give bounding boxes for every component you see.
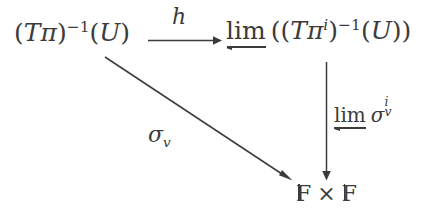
arrow-label-lim-sigma-v-i: lim σ i v bbox=[334, 102, 392, 131]
target-outer-close-paren: ) bbox=[402, 16, 412, 45]
target-exponent: −1 bbox=[338, 16, 361, 34]
times-icon: × bbox=[317, 181, 335, 206]
source-pi: π bbox=[40, 18, 56, 47]
arrow-vertical bbox=[322, 62, 331, 181]
blackboard-F-left: F bbox=[296, 183, 311, 205]
target-argument-U: U bbox=[371, 16, 392, 45]
target-open-paren: ( bbox=[280, 16, 290, 45]
sigma-indices-vertical: i v bbox=[384, 102, 392, 122]
blackboard-F-right: F bbox=[342, 183, 357, 205]
target-arg-open-paren: ( bbox=[361, 16, 371, 45]
arrow-diagonal bbox=[105, 57, 293, 181]
target-T: T bbox=[290, 16, 307, 45]
sigma-subscript-v: v bbox=[163, 134, 171, 150]
arrow-label-sigma-v: σv bbox=[148, 124, 171, 146]
source-arg-open-paren: ( bbox=[90, 18, 100, 47]
limit-arrow-head-left-icon bbox=[226, 46, 232, 50]
commutative-diagram: (Tπ)−1(U) lim ((Tπi)−1(U)) F×F h σv lim … bbox=[0, 0, 435, 217]
arrow-horizontal bbox=[148, 36, 222, 45]
source-close-paren: ) bbox=[57, 18, 67, 47]
source-open-paren: ( bbox=[14, 18, 24, 47]
target-close-paren: ) bbox=[328, 16, 338, 45]
target-outer-open-paren: ( bbox=[271, 16, 281, 45]
node-bottom-object: F×F bbox=[296, 183, 357, 205]
source-arg-close-paren: ) bbox=[120, 18, 130, 47]
sigma-glyph-vertical: σ bbox=[371, 103, 385, 127]
target-pi: π bbox=[307, 16, 323, 45]
limit-arrow-shaft bbox=[227, 46, 267, 48]
limit-text: lim bbox=[226, 16, 266, 45]
limit-arrow-head-left-icon-vertical bbox=[334, 127, 340, 131]
node-target-object: lim ((Tπi)−1(U)) bbox=[226, 18, 411, 51]
source-exponent: −1 bbox=[67, 18, 90, 36]
limit-text-vertical: lim bbox=[334, 103, 366, 127]
source-T: T bbox=[24, 18, 41, 47]
arrow-label-h: h bbox=[172, 6, 186, 28]
target-arg-close-paren: ) bbox=[392, 16, 402, 45]
inverse-limit-symbol-vertical: lim bbox=[334, 105, 366, 131]
source-argument-U: U bbox=[99, 18, 120, 47]
node-source-object: (Tπ)−1(U) bbox=[14, 20, 130, 45]
sigma-subscript-v-vertical: v bbox=[384, 106, 391, 118]
sigma-glyph: σ bbox=[148, 122, 163, 147]
inverse-limit-symbol: lim bbox=[226, 18, 266, 51]
